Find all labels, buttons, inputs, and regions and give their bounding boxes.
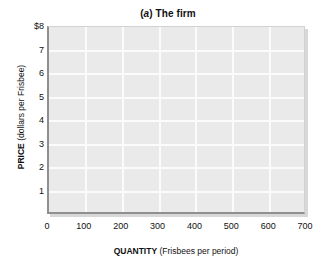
- x-axis-title-unit: (Frisbees per period): [157, 246, 238, 256]
- x-axis-tick-label: 200: [101, 222, 141, 231]
- x-axis-title: QUANTITY (Frisbees per period): [47, 246, 305, 256]
- x-axis-tick-label: 300: [138, 222, 178, 231]
- x-axis-tick-label: 100: [64, 222, 104, 231]
- x-axis-tick-label: 0: [27, 222, 67, 231]
- y-axis-title-strong: PRICE: [16, 143, 26, 169]
- x-axis-tick-label: 600: [248, 222, 288, 231]
- x-axis-tick-label: 500: [211, 222, 251, 231]
- x-axis-title-strong: QUANTITY: [114, 246, 157, 256]
- y-axis-title-unit: (dollars per Frisbee): [16, 65, 26, 143]
- y-axis-title: PRICE (dollars per Frisbee): [16, 32, 26, 202]
- x-axis-ticks: 0100200300400500600700: [0, 0, 336, 280]
- x-axis-tick-label: 400: [174, 222, 214, 231]
- x-axis-tick-label: 700: [285, 222, 325, 231]
